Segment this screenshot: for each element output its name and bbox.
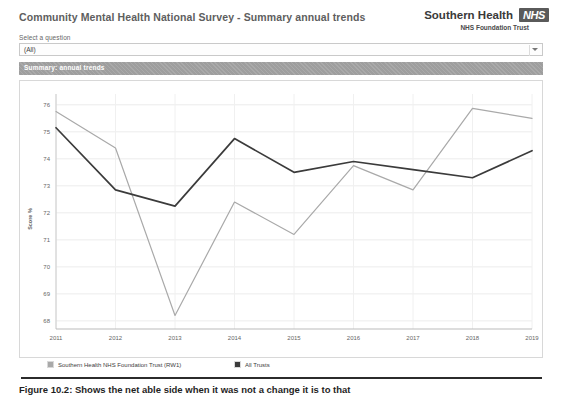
brand-block: Southern Health NHS NHS Foundation Trust bbox=[374, 8, 549, 31]
nhs-logo: NHS bbox=[519, 8, 549, 22]
y-tick-label: 73 bbox=[43, 183, 50, 189]
x-tick-label: 2016 bbox=[347, 335, 361, 341]
trend-chart: 686970717273747576 201120122013201420152… bbox=[19, 80, 543, 358]
legend-item-southern-health[interactable]: Southern Health NHS Foundation Trust (RW… bbox=[47, 361, 181, 368]
question-filter-label: Select a question bbox=[19, 34, 543, 41]
chart-xtick-labels: 201120122013201420152016201720182019 bbox=[50, 335, 540, 341]
x-tick-label: 2013 bbox=[168, 335, 182, 341]
section-header-bar: Summary: annual trends bbox=[19, 62, 543, 75]
chevron-down-icon[interactable] bbox=[532, 48, 538, 51]
legend-swatch bbox=[47, 361, 54, 368]
y-tick-label: 72 bbox=[43, 210, 50, 216]
brand-name: Southern Health bbox=[424, 9, 513, 21]
y-axis-title: Score % bbox=[27, 208, 33, 230]
y-tick-label: 76 bbox=[43, 102, 50, 108]
legend-swatch bbox=[234, 361, 241, 368]
trend-chart-svg: 686970717273747576 201120122013201420152… bbox=[20, 81, 542, 357]
chart-legend: Southern Health NHS Foundation Trust (RW… bbox=[19, 361, 543, 373]
chart-gridlines bbox=[56, 94, 532, 329]
legend-item-all-trusts[interactable]: All Trusts bbox=[234, 361, 270, 368]
x-tick-label: 2012 bbox=[109, 335, 123, 341]
x-tick-label: 2018 bbox=[466, 335, 480, 341]
y-tick-label: 68 bbox=[43, 318, 50, 324]
legend-label: Southern Health NHS Foundation Trust (RW… bbox=[58, 362, 181, 368]
y-tick-label: 69 bbox=[43, 291, 50, 297]
x-tick-label: 2017 bbox=[406, 335, 420, 341]
x-tick-label: 2015 bbox=[287, 335, 301, 341]
select-divider bbox=[529, 45, 530, 56]
question-filter: Select a question (All) bbox=[19, 34, 543, 56]
caption-rule bbox=[21, 377, 542, 379]
section-title: Summary: annual trends bbox=[24, 64, 105, 71]
x-tick-label: 2019 bbox=[525, 335, 539, 341]
page-header: Community Mental Health National Survey … bbox=[0, 0, 561, 34]
x-tick-label: 2011 bbox=[50, 335, 64, 341]
page-title: Community Mental Health National Survey … bbox=[19, 11, 365, 23]
y-tick-label: 74 bbox=[43, 156, 50, 162]
legend-label: All Trusts bbox=[245, 362, 270, 368]
y-tick-label: 71 bbox=[43, 237, 50, 243]
y-tick-label: 75 bbox=[43, 129, 50, 135]
y-tick-label: 70 bbox=[43, 264, 50, 270]
question-select-value: (All) bbox=[24, 46, 36, 53]
x-tick-label: 2014 bbox=[228, 335, 242, 341]
chart-ytick-labels: 686970717273747576 bbox=[43, 102, 50, 324]
brand-subtitle: NHS Foundation Trust bbox=[374, 24, 549, 31]
figure-caption: Figure 10.2: Shows the net able side whe… bbox=[19, 384, 549, 395]
question-select[interactable]: (All) bbox=[19, 43, 543, 56]
